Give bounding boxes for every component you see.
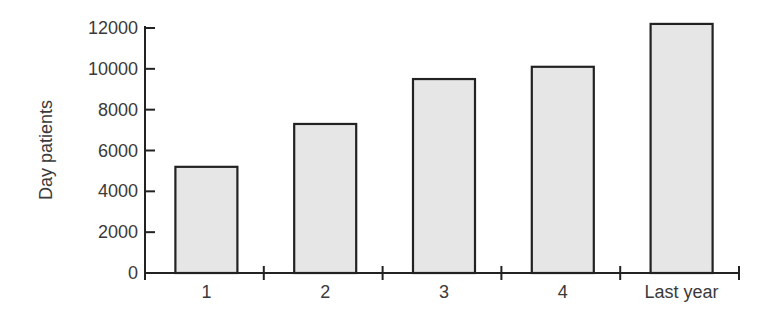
bar-4 <box>532 67 594 273</box>
x-tick-label: Last year <box>645 282 719 302</box>
y-tick-label: 4000 <box>98 181 138 201</box>
x-tick-label: 3 <box>439 282 449 302</box>
x-tick-label: 1 <box>201 282 211 302</box>
bars <box>175 24 712 273</box>
bar-3 <box>413 79 475 273</box>
x-tick-label: 2 <box>320 282 330 302</box>
y-tick-label: 12000 <box>88 18 138 38</box>
y-axis-title: Day patients <box>36 100 56 200</box>
y-tick-label: 2000 <box>98 222 138 242</box>
bar-2 <box>294 124 356 273</box>
y-tick-label: 8000 <box>98 100 138 120</box>
y-axis-title-group: Day patients <box>36 100 56 200</box>
bar-chart: Day patients 020004000600080001000012000… <box>0 0 776 314</box>
y-tick-label: 0 <box>128 263 138 283</box>
bar-1 <box>175 167 237 273</box>
y-tick-label: 10000 <box>88 59 138 79</box>
x-tick-label: 4 <box>558 282 568 302</box>
bar-last-year <box>651 24 713 273</box>
y-tick-label: 6000 <box>98 141 138 161</box>
